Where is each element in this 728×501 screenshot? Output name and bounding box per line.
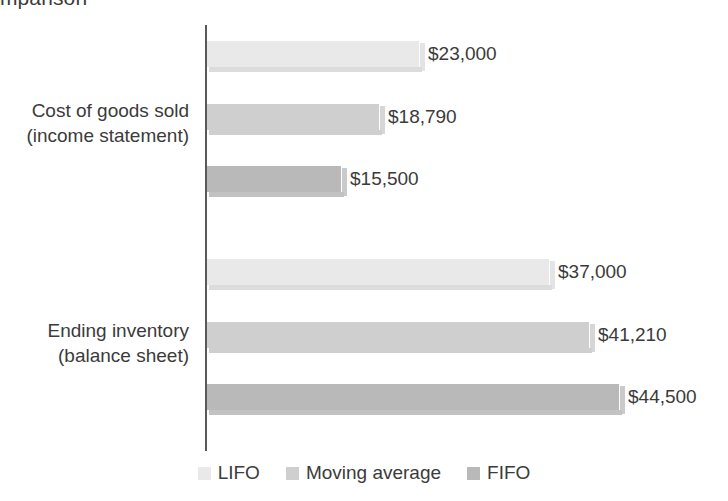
bar-chart: mparison $23,000 $18,790 $15,500 $37 — [0, 0, 728, 501]
legend-swatch-icon — [467, 467, 480, 480]
category-label-cost-of-goods-sold: Cost of goods sold (income statement) — [26, 98, 189, 148]
legend-item-fifo[interactable]: FIFO — [467, 462, 530, 484]
bar-value-label: $18,790 — [388, 106, 457, 128]
legend-swatch-icon — [198, 467, 211, 480]
bar-value-label: $37,000 — [558, 261, 627, 283]
bar-bevel — [209, 410, 622, 415]
bar-fifo-ending-inventory[interactable] — [207, 384, 620, 410]
bar-moving-average-ending-inventory[interactable] — [207, 322, 590, 348]
plot-area: $23,000 $18,790 $15,500 $37,000 $41,210 — [0, 0, 728, 455]
bar-value-label: $15,500 — [350, 168, 419, 190]
bar-fifo-cogs[interactable] — [207, 166, 342, 192]
bar-lifo-cogs[interactable] — [207, 41, 420, 67]
bar-bevel — [209, 192, 344, 197]
legend-label: LIFO — [218, 462, 260, 484]
category-label-line: (balance sheet) — [47, 343, 189, 368]
bar-bevel — [209, 130, 382, 135]
category-label-line: Cost of goods sold — [26, 98, 189, 123]
legend-item-lifo[interactable]: LIFO — [198, 462, 260, 484]
bar-moving-average-cogs[interactable] — [207, 104, 380, 130]
bar-bevel — [209, 348, 592, 353]
bar-bevel — [209, 285, 552, 290]
category-label-ending-inventory: Ending inventory (balance sheet) — [47, 318, 189, 368]
category-label-line: Ending inventory — [47, 318, 189, 343]
bar-value-label: $44,500 — [628, 386, 697, 408]
category-label-line: (income statement) — [26, 123, 189, 148]
bar-value-label: $41,210 — [598, 324, 667, 346]
legend-label: FIFO — [487, 462, 530, 484]
bar-value-label: $23,000 — [428, 43, 497, 65]
legend-label: Moving average — [306, 462, 441, 484]
legend-item-moving-average[interactable]: Moving average — [286, 462, 441, 484]
legend-swatch-icon — [286, 467, 299, 480]
bar-bevel — [209, 67, 422, 72]
chart-legend: LIFO Moving average FIFO — [0, 462, 728, 484]
bar-lifo-ending-inventory[interactable] — [207, 259, 550, 285]
